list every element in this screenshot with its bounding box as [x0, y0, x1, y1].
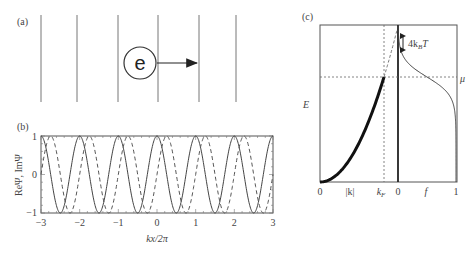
dispersion-unoccupied — [384, 30, 397, 77]
xtick: −3 — [36, 217, 47, 228]
xtick: 3 — [271, 217, 276, 228]
xtick-labels: −3 −2 −1 0 1 2 3 — [36, 217, 276, 228]
y-axis-label: ReΨ, ImΨ — [13, 153, 24, 196]
panel-c-label: (c) — [302, 11, 313, 23]
x-axis-label: kx/2π — [146, 233, 169, 244]
k-zero-tick: 0 — [318, 186, 323, 197]
panel-b: (b) 1 0 −1 −3 −2 −1 0 1 2 3 kx/2π ReΨ, I… — [13, 121, 276, 244]
xtick: 0 — [155, 217, 160, 228]
xtick: 1 — [193, 217, 198, 228]
f-axis-label: f — [425, 186, 429, 197]
xtick: −1 — [113, 217, 124, 228]
dispersion-occupied — [320, 77, 384, 182]
k-axis-label: |k| — [345, 186, 354, 197]
im-psi-curve — [41, 136, 273, 213]
f-zero-tick: 0 — [396, 186, 401, 197]
xtick: 2 — [232, 217, 237, 228]
electron-label: e — [134, 52, 145, 74]
ytick-0: 0 — [32, 169, 37, 180]
figure-canvas: (a) e (b) 1 0 −1 −3 −2 −1 0 1 2 3 — [0, 0, 472, 254]
kf-label: kF — [377, 186, 386, 199]
plot-frame — [320, 25, 457, 182]
panel-b-label: (b) — [17, 121, 29, 133]
thermal-width-label: 4kBT — [408, 38, 429, 51]
panel-a-label: (a) — [17, 16, 28, 28]
energy-axis-label: E — [302, 99, 309, 110]
ytick-1: 1 — [32, 131, 37, 142]
panel-c: (c) 4kBT μ E 0 |k| kF 0 f 1 — [302, 11, 465, 199]
panel-a: (a) e — [17, 15, 236, 102]
mu-label: μ — [459, 73, 465, 84]
f-one-tick: 1 — [454, 186, 459, 197]
xtick: −2 — [74, 217, 85, 228]
